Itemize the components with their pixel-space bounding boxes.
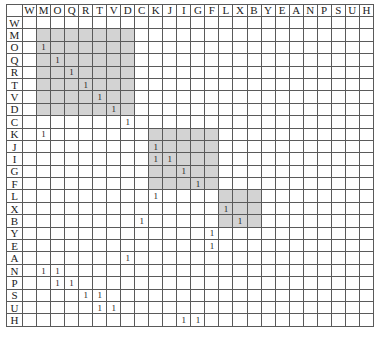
matrix-cell [233,227,247,239]
matrix-cell [135,91,149,103]
matrix-cell [275,116,289,128]
matrix-cell [191,190,205,202]
row-label: K [7,128,23,140]
matrix-row: A1 [7,252,374,264]
matrix-cell [275,264,289,276]
matrix-cell: 1 [107,103,121,115]
matrix-cell [65,227,79,239]
matrix-cell [79,264,93,276]
matrix-cell [331,54,345,66]
matrix-cell [79,140,93,152]
matrix-cell [289,215,303,227]
matrix-cell [149,128,163,140]
matrix-cell [37,202,51,214]
matrix-cell [93,66,107,78]
matrix-cell [205,103,219,115]
matrix-cell [247,314,261,326]
matrix-cell [149,277,163,289]
matrix-cell [51,29,65,41]
matrix-cell [303,252,317,264]
column-header: T [93,5,107,17]
matrix-cell [93,314,107,326]
matrix-cell [93,277,107,289]
matrix-cell [191,153,205,165]
matrix-cell [135,227,149,239]
matrix-cell [163,29,177,41]
matrix-cell [135,277,149,289]
matrix-cell [107,252,121,264]
matrix-cell [79,128,93,140]
row-label: F [7,178,23,190]
matrix-row: J1 [7,140,374,152]
matrix-row: U11 [7,301,374,313]
matrix-cell [359,29,373,41]
matrix-cell [359,128,373,140]
matrix-cell [107,41,121,53]
row-label: L [7,190,23,202]
matrix-cell [51,178,65,190]
matrix-cell [233,17,247,29]
matrix-cell [135,202,149,214]
matrix-cell [219,178,233,190]
matrix-cell [303,240,317,252]
column-header: K [149,5,163,17]
matrix-cell [135,178,149,190]
matrix-cell [317,17,331,29]
matrix-cell: 1 [65,66,79,78]
matrix-cell [317,116,331,128]
matrix-cell [191,301,205,313]
matrix-cell [233,153,247,165]
matrix-cell [177,91,191,103]
matrix-cell [37,91,51,103]
row-label: J [7,140,23,152]
matrix-cell [163,178,177,190]
matrix-cell [23,128,37,140]
matrix-cell [163,264,177,276]
matrix-cell [177,78,191,90]
matrix-cell [233,178,247,190]
matrix-cell [51,215,65,227]
matrix-cell [233,116,247,128]
matrix-cell: 1 [149,140,163,152]
matrix-cell [51,140,65,152]
matrix-row: S11 [7,289,374,301]
matrix-cell [37,116,51,128]
matrix-cell [219,103,233,115]
matrix-cell [247,153,261,165]
matrix-cell [79,301,93,313]
matrix-cell [317,227,331,239]
matrix-cell [233,103,247,115]
matrix-cell [23,227,37,239]
matrix-cell [219,17,233,29]
matrix-cell [345,227,359,239]
matrix-cell [93,202,107,214]
matrix-cell: 1 [135,215,149,227]
matrix-cell [37,103,51,115]
matrix-cell [177,227,191,239]
matrix-cell [163,240,177,252]
matrix-cell [163,252,177,264]
row-label: G [7,165,23,177]
matrix-row: X1 [7,202,374,214]
matrix-cell [23,17,37,29]
row-label: I [7,153,23,165]
matrix-cell [93,190,107,202]
matrix-cell [121,264,135,276]
column-header: C [135,5,149,17]
matrix-cell [289,78,303,90]
matrix-cell [359,227,373,239]
matrix-cell [163,227,177,239]
matrix-cell [219,190,233,202]
matrix-cell [121,128,135,140]
matrix-cell [191,17,205,29]
matrix-cell: 1 [149,153,163,165]
matrix-cell [261,227,275,239]
matrix-cell [275,128,289,140]
matrix-cell [345,91,359,103]
matrix-cell [303,140,317,152]
matrix-cell [359,116,373,128]
matrix-cell [289,116,303,128]
matrix-cell [289,91,303,103]
matrix-cell [303,54,317,66]
matrix-cell [275,314,289,326]
